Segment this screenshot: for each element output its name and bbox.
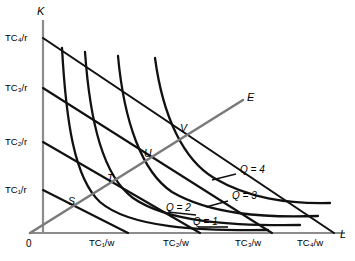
y-tick-label-tc3: TC₃/r xyxy=(5,83,27,93)
equilibrium-point-label-t: T xyxy=(107,173,113,184)
x-axis-name: L xyxy=(340,229,346,240)
x-tick-label-tc2: TC₂/w xyxy=(163,238,189,248)
isoquant-curve-q1 xyxy=(62,48,268,230)
leader-line-q4 xyxy=(212,174,236,180)
x-tick-label-tc1: TC₁/w xyxy=(89,238,114,248)
equilibrium-point-label-s: S xyxy=(68,196,75,207)
x-tick-label-tc3: TC₃/w xyxy=(235,238,261,248)
y-tick-label-tc1: TC₁/r xyxy=(5,185,27,195)
x-tick-label-tc4: TC₄/w xyxy=(297,238,323,248)
origin-label: 0 xyxy=(26,239,32,249)
plot-canvas xyxy=(0,0,355,261)
expansion-path-line xyxy=(30,100,243,233)
isoquant-label-q4: Q = 4 xyxy=(240,165,265,175)
isoquant-label-q2: Q = 2 xyxy=(166,203,191,213)
equilibrium-point-label-v: V xyxy=(180,123,187,134)
isoquant-isocost-figure: K L 0 TC₄/r TC₃/r TC₂/r TC₁/r TC₁/w TC₂/… xyxy=(0,0,355,261)
isoquant-label-q1: Q = 1 xyxy=(193,217,218,227)
y-tick-label-tc4: TC₄/r xyxy=(5,33,27,43)
isoquant-curve-q3 xyxy=(118,56,318,216)
y-tick-label-tc2: TC₂/r xyxy=(5,137,27,147)
isoquant-label-q3: Q = 3 xyxy=(232,191,257,201)
equilibrium-point-label-u: U xyxy=(144,148,152,159)
y-axis-name: K xyxy=(37,6,44,17)
expansion-path-label: E xyxy=(247,92,254,103)
